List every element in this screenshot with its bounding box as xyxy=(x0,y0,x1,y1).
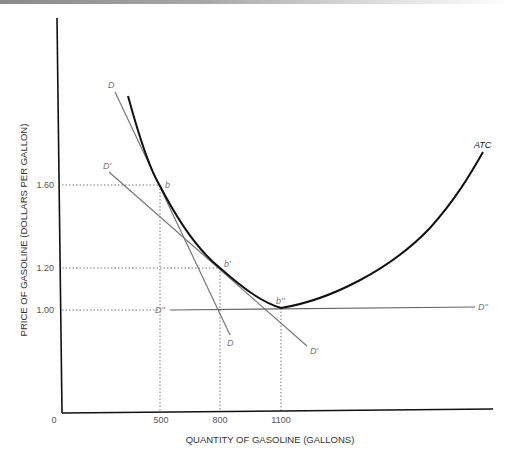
label-d-double-prime-left: D'' xyxy=(155,305,165,315)
y-tick-120: 1.20 xyxy=(36,263,54,273)
x-tick-800: 800 xyxy=(212,415,227,425)
x-tick-500: 500 xyxy=(153,415,168,425)
point-label-b-prime: b' xyxy=(224,259,231,269)
origin-label: 0 xyxy=(51,415,56,425)
label-atc: ATC xyxy=(473,140,492,150)
label-d-prime-top: D' xyxy=(103,161,111,171)
label-d-prime-bottom: D' xyxy=(310,346,318,356)
demand-curve-d-double-prime xyxy=(170,307,475,310)
demand-curve-d xyxy=(115,92,230,335)
guide-lines xyxy=(62,185,281,412)
atc-curve xyxy=(128,96,483,308)
point-label-b-double-prime: b'' xyxy=(276,296,285,306)
axes xyxy=(57,18,493,413)
y-tick-160: 1.60 xyxy=(36,180,54,190)
x-axis-title: QUANTITY OF GASOLINE (GALLONS) xyxy=(186,434,355,445)
demand-curve-d-prime xyxy=(109,172,307,346)
y-tick-100: 1.00 xyxy=(36,305,54,315)
y-axis-title: PRICE OF GASOLINE (DOLLARS PER GALLON) xyxy=(18,124,29,337)
label-d-double-prime-right: D'' xyxy=(478,302,488,312)
y-axis xyxy=(57,18,62,413)
x-tick-1100: 1100 xyxy=(271,415,290,425)
label-d-bottom: D xyxy=(227,338,234,348)
point-label-b: b xyxy=(165,180,170,190)
chart: 0 500 800 1100 1.60 1.20 1.00 QUANTITY O… xyxy=(0,0,513,458)
label-d-top: D xyxy=(108,80,115,90)
x-axis xyxy=(62,409,493,413)
